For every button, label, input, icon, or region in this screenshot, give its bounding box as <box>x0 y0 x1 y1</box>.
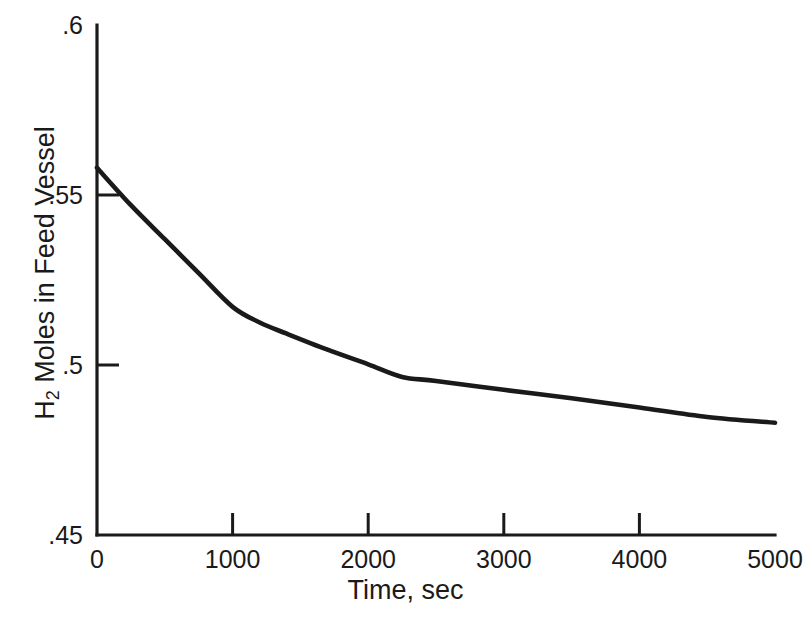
y-axis-title-prefix: H <box>30 400 60 420</box>
plot-area <box>0 0 811 622</box>
x-axis-ticks <box>233 513 640 535</box>
x-tick-label: 4000 <box>612 545 668 574</box>
data-curve <box>97 168 775 423</box>
x-tick-label: 3000 <box>476 545 532 574</box>
y-axis-title-wrapper: H2 Moles in Feed Vessel <box>30 0 70 553</box>
x-tick-label: 5000 <box>747 545 803 574</box>
chart-figure: .45.5.55.6 010002000300040005000 Time, s… <box>0 0 811 622</box>
x-tick-label: 1000 <box>205 545 261 574</box>
x-tick-label: 0 <box>90 545 104 574</box>
data-series-group <box>97 168 775 423</box>
y-axis-title-subscript: 2 <box>43 390 63 400</box>
x-axis-title: Time, sec <box>0 575 811 606</box>
y-axis-title-suffix: Moles in Feed Vessel <box>30 126 60 390</box>
y-axis-ticks <box>97 195 119 365</box>
x-tick-label: 2000 <box>340 545 396 574</box>
axes <box>97 25 775 535</box>
y-axis-title: H2 Moles in Feed Vessel <box>30 126 60 420</box>
